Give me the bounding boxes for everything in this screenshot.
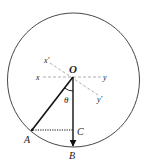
label-x: x xyxy=(35,73,40,82)
theta-arc xyxy=(65,88,74,91)
label-b: B xyxy=(69,150,75,161)
label-o: O xyxy=(69,63,77,75)
pendulum-diagram: O x y x' y' θ A B C xyxy=(0,0,147,162)
label-y: y xyxy=(102,73,107,82)
label-x-prime: x' xyxy=(43,56,50,65)
label-y-prime: y' xyxy=(96,95,103,104)
label-c: C xyxy=(77,126,84,137)
label-a: A xyxy=(23,134,31,145)
label-theta: θ xyxy=(64,95,69,105)
point-a xyxy=(31,129,33,131)
